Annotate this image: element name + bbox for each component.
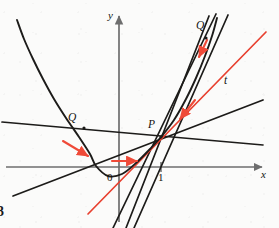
- figure-canvas: [0, 0, 279, 228]
- point-markers-group: [82, 36, 207, 138]
- point-label-q-left: Q: [68, 112, 76, 124]
- point-marker-p: [159, 135, 162, 138]
- secant-line-2: [13, 100, 263, 196]
- axes-group: [6, 16, 262, 222]
- x-axis-label: x: [261, 169, 266, 180]
- secant-lines-group: [2, 14, 263, 228]
- point-label-q-right: Q: [196, 20, 204, 32]
- x-tick-label-1: 1: [158, 172, 164, 183]
- function-curve: [17, 18, 217, 177]
- point-marker-q-right: [204, 36, 207, 39]
- y-axis-label: y: [108, 10, 113, 21]
- tangent-line-label: t: [224, 75, 227, 87]
- secant-line-5: [126, 16, 209, 228]
- point-marker-q-left: [82, 126, 85, 129]
- tangent-line-group: [88, 32, 266, 214]
- figure-container: y x 0 1 P Q Q t 3: [0, 0, 279, 228]
- origin-label: 0: [107, 172, 113, 183]
- tangent-line-1: [88, 32, 266, 214]
- arrow-right-lower: [180, 100, 195, 119]
- secant-line-3: [113, 14, 216, 228]
- function-curve-group: [17, 18, 217, 177]
- secant-line-1: [2, 122, 263, 145]
- figure-number-label: 3: [0, 205, 4, 219]
- point-label-p: P: [148, 119, 155, 131]
